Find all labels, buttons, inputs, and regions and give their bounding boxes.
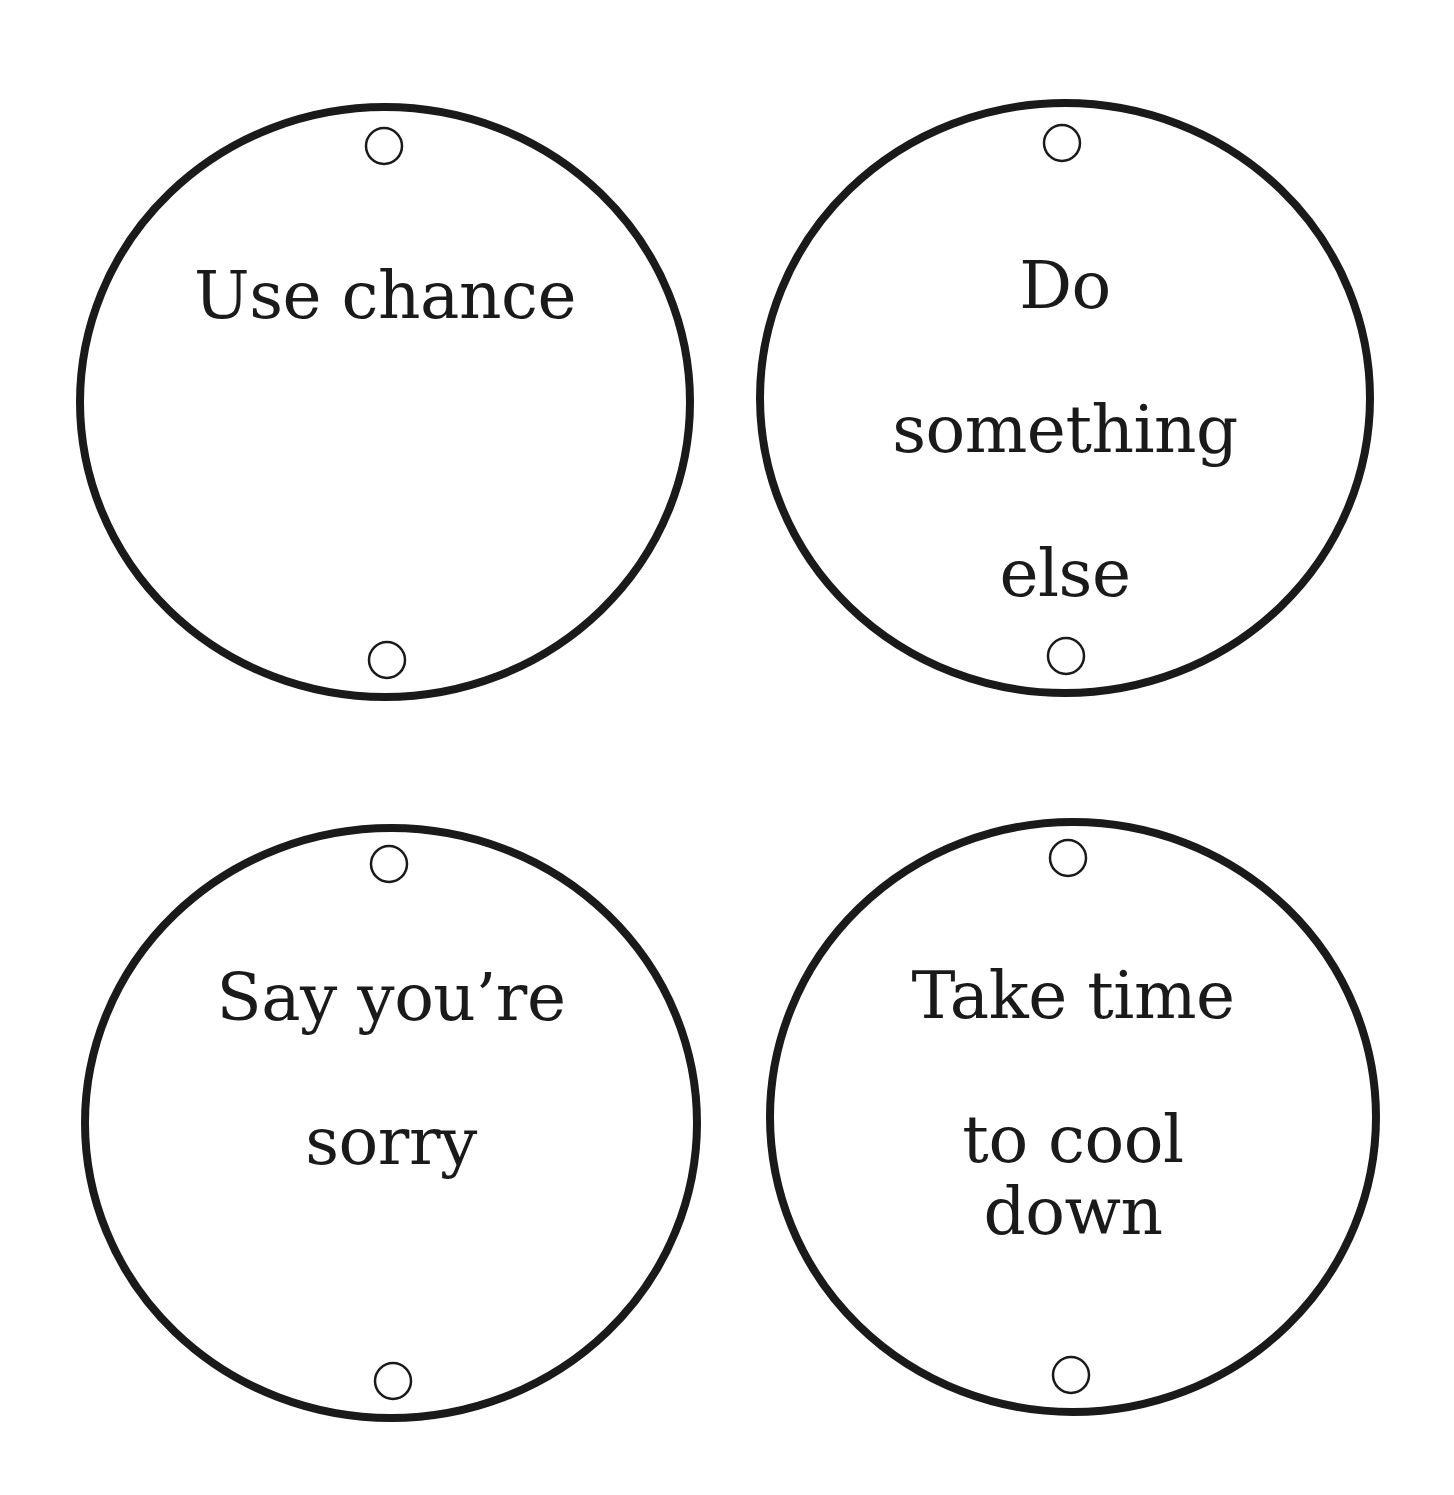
label-line: Say you’re — [217, 962, 566, 1034]
label-line: sorry — [217, 1106, 566, 1178]
label-line: Do — [892, 250, 1238, 322]
punch-hole-top-icon — [1050, 840, 1086, 876]
punch-hole-top-icon — [366, 128, 402, 164]
label-line: Use chance — [194, 260, 576, 332]
label-line: something — [892, 394, 1238, 466]
label-line: to cool down — [883, 1104, 1264, 1248]
card-label-do-something-else: Do something else — [892, 178, 1238, 682]
punch-hole-bottom-icon — [1053, 1357, 1089, 1393]
punch-hole-top-icon — [371, 846, 407, 882]
card-label-take-time-to-cool-down: Take time to cool down — [883, 888, 1264, 1320]
punch-hole-bottom-icon — [369, 642, 405, 678]
card-label-say-youre-sorry: Say you’re sorry — [217, 890, 566, 1250]
card-label-use-chance: Use chance — [194, 188, 576, 404]
punch-hole-bottom-icon — [375, 1363, 411, 1399]
label-line: Take time — [883, 960, 1264, 1032]
label-line: else — [892, 538, 1238, 610]
punch-hole-top-icon — [1044, 125, 1080, 161]
